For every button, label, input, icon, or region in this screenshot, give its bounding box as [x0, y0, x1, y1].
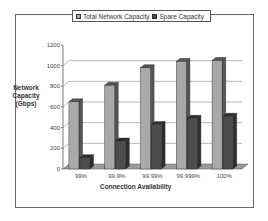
- x-tick-label: 99.99%: [142, 173, 163, 179]
- x-tick-label: 99.999%: [176, 173, 200, 179]
- y-tick-label: 600: [50, 104, 61, 110]
- gridline-diagonal: [63, 143, 69, 148]
- gridline-diagonal: [63, 61, 69, 66]
- plot-area: 02004006008001000120099%99.9%99.99%99.99…: [0, 0, 268, 221]
- bar-spare-capacity: [223, 116, 233, 169]
- x-tick-label: 99.9%: [108, 173, 126, 179]
- bar-side: [233, 113, 237, 169]
- bar-spare-capacity: [187, 118, 197, 169]
- gridline-diagonal: [63, 102, 69, 107]
- bar-spare-capacity: [80, 158, 90, 169]
- x-tick-label: 100%: [216, 173, 232, 179]
- bar-spare-capacity: [152, 125, 162, 169]
- bar-spare-capacity: [116, 141, 126, 169]
- bar-side: [162, 122, 166, 169]
- y-tick-label: 800: [50, 83, 61, 89]
- y-tick-label: 1000: [47, 63, 61, 69]
- bar-side: [197, 115, 201, 169]
- bar-side: [126, 138, 130, 169]
- bar-total-capacity: [141, 68, 151, 169]
- y-tick-label: 200: [50, 145, 61, 151]
- bar-total-capacity: [105, 85, 115, 169]
- gridline-diagonal: [63, 81, 69, 86]
- bar-total-capacity: [212, 61, 222, 170]
- bar-total-capacity: [69, 102, 79, 169]
- y-tick-label: 0: [57, 166, 61, 172]
- gridline-diagonal: [63, 123, 69, 128]
- bar-total-capacity: [176, 62, 186, 169]
- x-tick-label: 99%: [75, 173, 88, 179]
- y-tick-label: 400: [50, 125, 61, 131]
- y-tick-label: 1200: [47, 42, 61, 48]
